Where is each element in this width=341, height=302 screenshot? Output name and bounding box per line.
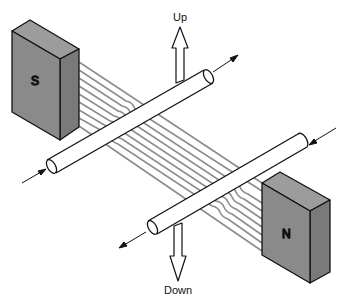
- motor-effect-diagram: S N Up Down: [0, 0, 341, 302]
- north-magnet-side: [310, 200, 330, 283]
- up-label: Up: [173, 11, 187, 23]
- south-magnet: S: [12, 20, 79, 140]
- north-pole-label: N: [282, 227, 291, 241]
- south-pole-label: S: [31, 74, 39, 88]
- up-force-arrow: Up: [172, 11, 188, 83]
- south-magnet-side: [60, 49, 79, 140]
- down-label: Down: [164, 284, 192, 296]
- north-magnet: N: [262, 172, 330, 283]
- down-force-arrow: Down: [164, 223, 192, 296]
